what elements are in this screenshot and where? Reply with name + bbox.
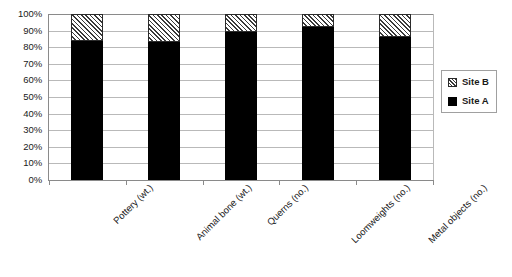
bar-segment-site-a[interactable] <box>302 27 334 180</box>
bar-stack[interactable] <box>71 14 103 180</box>
hatch-swatch-icon <box>448 78 457 87</box>
bar-stack[interactable] <box>302 14 334 180</box>
y-tick-label: 90% <box>23 26 42 36</box>
legend: Site B Site A <box>441 70 497 113</box>
stacked-bar-chart: 100%90%80%70%60%50%40%30%20%10%0% Potter… <box>0 0 512 277</box>
bar-segment-site-b[interactable] <box>225 14 257 32</box>
x-category-label: Loomweights (no.) <box>349 182 412 245</box>
bar-segment-site-a[interactable] <box>225 32 257 180</box>
legend-label: Site B <box>462 77 489 87</box>
bar-slot <box>49 14 126 180</box>
bar-slot <box>356 14 433 180</box>
bar-segment-site-a[interactable] <box>148 42 180 180</box>
bar-slot <box>126 14 203 180</box>
y-tick-label: 100% <box>18 9 42 19</box>
y-tick-label: 30% <box>23 125 42 135</box>
legend-item-site-b: Site B <box>448 77 489 87</box>
x-tick <box>433 180 434 185</box>
y-axis: 100%90%80%70%60%50%40%30%20%10%0% <box>0 8 46 188</box>
y-tick-label: 80% <box>23 42 42 52</box>
legend-item-site-a: Site A <box>448 96 489 106</box>
bar-stack[interactable] <box>148 14 180 180</box>
x-category-label: Querns (no.) <box>265 182 310 227</box>
y-tick-label: 50% <box>23 92 42 102</box>
bar-segment-site-b[interactable] <box>379 14 411 37</box>
bar-segment-site-b[interactable] <box>148 14 180 42</box>
bar-segment-site-a[interactable] <box>379 37 411 180</box>
x-category-label: Animal bone (wt.) <box>194 182 254 242</box>
x-category-label: Metal objects (no.) <box>426 182 489 245</box>
bar-segment-site-a[interactable] <box>71 41 103 180</box>
y-tick-label: 70% <box>23 59 42 69</box>
legend-label: Site A <box>462 96 489 106</box>
x-axis-category-labels: Pottery (wt.)Animal bone (wt.)Querns (no… <box>48 182 432 277</box>
y-tick-label: 40% <box>23 109 42 119</box>
bar-stack[interactable] <box>225 14 257 180</box>
plot-area <box>48 14 433 181</box>
solid-swatch-icon <box>448 97 457 106</box>
y-tick-label: 0% <box>28 175 42 185</box>
bar-segment-site-b[interactable] <box>71 14 103 41</box>
plot-right-edge <box>433 14 434 180</box>
bars-layer <box>49 14 433 180</box>
bar-segment-site-b[interactable] <box>302 14 334 27</box>
y-tick-label: 10% <box>23 159 42 169</box>
bar-slot <box>279 14 356 180</box>
bar-stack[interactable] <box>379 14 411 180</box>
y-tick-label: 60% <box>23 76 42 86</box>
x-category-label: Pottery (wt.) <box>111 182 155 226</box>
bar-slot <box>203 14 280 180</box>
y-tick-label: 20% <box>23 142 42 152</box>
